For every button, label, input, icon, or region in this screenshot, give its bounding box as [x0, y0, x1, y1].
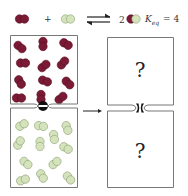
right-bottom-chamber: ?: [108, 112, 174, 188]
left-top-chamber: [11, 36, 78, 106]
unknown-bottom-label: ?: [135, 139, 146, 163]
unknown-top-label: ?: [135, 58, 146, 82]
keq-value: = 4: [163, 14, 179, 24]
red-green-dimer-icon: [127, 15, 140, 23]
closed-valve: [11, 101, 78, 111]
equilibrium-arrows-icon: [87, 14, 110, 25]
keq-label: Keq: [144, 14, 159, 27]
reaction-equation: + 2 Keq = 4: [15, 14, 179, 27]
green-dimer-molecules: [12, 118, 77, 186]
left-bottom-chamber: [11, 109, 78, 188]
equilibrium-diagram: + 2 Keq = 4: [0, 0, 188, 196]
product-coefficient: 2: [119, 15, 125, 25]
plus-sign: +: [44, 14, 52, 24]
right-top-chamber: ?: [108, 38, 174, 105]
red-dimer-molecules: [12, 37, 76, 106]
green-dimer-icon: [61, 15, 74, 23]
right-arrow-icon: [83, 109, 102, 113]
red-dimer-icon: [15, 15, 28, 23]
open-valve: [108, 104, 174, 113]
